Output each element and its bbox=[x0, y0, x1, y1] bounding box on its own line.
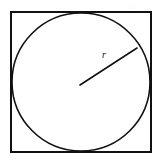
radius-label: r bbox=[102, 50, 106, 60]
geometry-figure: the formula circle area length inscribed… bbox=[0, 0, 161, 167]
figure-canvas bbox=[0, 0, 161, 167]
